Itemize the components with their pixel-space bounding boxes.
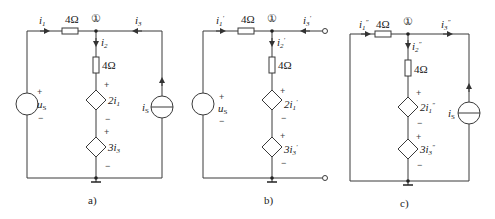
resistor-branch	[269, 57, 275, 73]
svg-text:①: ①	[403, 15, 413, 27]
voltage-source	[192, 93, 214, 115]
svg-text:+: +	[416, 88, 421, 98]
svg-text:i1″: i1″	[359, 18, 369, 32]
dependent-voltage-source-1	[398, 97, 418, 117]
svg-text:i1: i1	[39, 14, 46, 28]
resistor-branch	[93, 57, 99, 73]
dependent-voltage-source-1	[262, 90, 282, 110]
circuit-diagrams: 4Ω ① i1 i2 i3 4Ω + uS − + 2i1 − + 3i3 − …	[0, 0, 495, 219]
svg-text:−: −	[417, 160, 422, 170]
svg-text:4Ω: 4Ω	[376, 18, 390, 30]
resistor-series	[238, 28, 254, 34]
voltage-source	[16, 93, 38, 115]
svg-text:i2: i2	[101, 36, 108, 50]
svg-text:+: +	[104, 80, 109, 90]
svg-text:i1′: i1′	[216, 14, 225, 28]
caption-b: b)	[264, 194, 274, 207]
label-r-branch: 4Ω	[102, 59, 116, 71]
svg-text:2i1″: 2i1″	[420, 101, 435, 115]
node-dot	[270, 29, 274, 33]
svg-text:+: +	[104, 127, 109, 137]
resistor-branch	[405, 60, 411, 76]
node-dot	[406, 32, 410, 36]
svg-text:i2′: i2′	[277, 36, 286, 50]
terminal-bottom	[323, 176, 328, 181]
svg-text:−: −	[105, 161, 110, 171]
label-r-series: 4Ω	[65, 13, 79, 25]
svg-text:i3′: i3′	[303, 14, 312, 28]
figure-a: 4Ω ① i1 i2 i3 4Ω + uS − + 2i1 − + 3i3 − …	[16, 12, 173, 207]
figure-b: 4Ω ① i1′ i2′ i3′ 4Ω + uS − + 2i1′ − + 3i…	[192, 12, 328, 207]
svg-text:3i3: 3i3	[107, 141, 121, 155]
label-node: ①	[91, 12, 101, 24]
svg-text:+: +	[416, 132, 421, 142]
caption-c: c)	[400, 197, 409, 210]
svg-text:4Ω: 4Ω	[414, 63, 428, 75]
svg-text:−: −	[281, 113, 286, 123]
resistor-series	[375, 31, 391, 37]
dependent-voltage-source-2	[398, 139, 418, 159]
dependent-voltage-source-1	[86, 90, 106, 110]
svg-text:i3″: i3″	[441, 18, 451, 32]
node-dot	[94, 29, 98, 33]
svg-text:−: −	[105, 114, 110, 124]
svg-text:−: −	[417, 118, 422, 128]
svg-text:2i1: 2i1	[108, 94, 120, 108]
svg-text:iS: iS	[142, 101, 149, 115]
dependent-voltage-source-2	[86, 137, 106, 157]
svg-text:−: −	[38, 113, 43, 123]
svg-text:①: ①	[267, 12, 277, 24]
svg-text:+: +	[280, 86, 285, 96]
dependent-voltage-source-2	[262, 137, 282, 157]
svg-text:4Ω: 4Ω	[278, 59, 292, 71]
svg-text:−: −	[281, 158, 286, 168]
svg-text:i2″: i2″	[412, 40, 422, 54]
caption-a: a)	[88, 194, 97, 207]
svg-text:3i3′: 3i3′	[283, 143, 298, 157]
svg-text:+: +	[219, 92, 224, 102]
svg-text:4Ω: 4Ω	[241, 13, 255, 25]
figure-c: 4Ω ① i1″ i2″ i3″ 4Ω + 2i1″ − + 3i3″ − iS…	[350, 15, 480, 210]
svg-text:−: −	[219, 116, 224, 126]
svg-text:2i1′: 2i1′	[284, 98, 298, 112]
terminal-top	[323, 29, 328, 34]
svg-text:uS: uS	[218, 102, 228, 116]
svg-text:+: +	[37, 87, 42, 97]
svg-text:3i3″: 3i3″	[419, 143, 435, 157]
resistor-series	[62, 28, 78, 34]
svg-text:+: +	[280, 131, 285, 141]
svg-text:uS: uS	[37, 98, 47, 112]
svg-text:iS: iS	[448, 107, 455, 121]
svg-text:i3: i3	[135, 14, 142, 28]
